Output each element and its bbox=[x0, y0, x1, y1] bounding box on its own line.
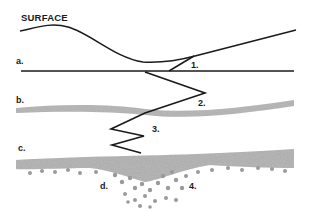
layer-label-d: d. bbox=[100, 182, 108, 191]
marker-label-3: 3. bbox=[152, 125, 160, 134]
marker-label-4: 4. bbox=[189, 182, 197, 191]
layer-c-band bbox=[16, 149, 294, 182]
marker-label-1: 1. bbox=[191, 61, 199, 70]
surface-label: SURFACE bbox=[21, 13, 68, 22]
layer-label-a: a. bbox=[16, 57, 24, 66]
layer-label-c: c. bbox=[18, 144, 26, 153]
layer-label-b: b. bbox=[16, 96, 24, 105]
surface-line bbox=[20, 25, 296, 62]
cross-section-diagram bbox=[0, 0, 309, 211]
marker-label-2: 2. bbox=[198, 99, 206, 108]
